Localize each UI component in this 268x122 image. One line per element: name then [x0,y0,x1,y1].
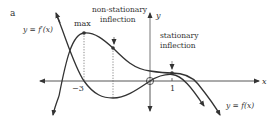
nonstat-label-line1: non-stationary [92,5,148,14]
stat-label-line1: stationary [160,31,199,40]
curve-f-tail [53,96,59,115]
max-label: max [74,19,91,28]
derivative-diagram: a x y max non-stationary inflection stat… [0,0,268,122]
max-point [82,31,86,35]
tick-one-label: 1 [170,84,175,93]
nonstat-inflection-point [111,46,115,50]
stat-label-line2: inflection [160,41,196,50]
curve-f [59,33,220,115]
nonstat-label-line2: inflection [100,15,136,24]
x-axis-label: x [262,77,267,86]
curve-f-prime-top [56,13,60,23]
stationary-inflection-point [170,71,174,75]
f-prime-label: y = f′(x) [22,25,53,34]
panel-label: a [10,8,16,18]
y-axis-label: y [155,11,161,20]
tick-neg3-label: −3 [72,84,84,93]
f-label: y = f(x) [225,101,254,110]
